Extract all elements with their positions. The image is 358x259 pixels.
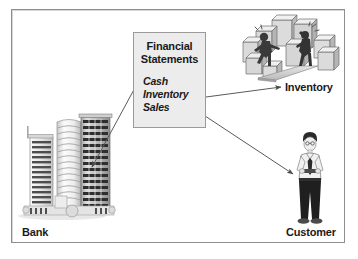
arrow-inventory-to-inventory xyxy=(206,87,281,97)
node-label-bank: Bank xyxy=(22,226,48,238)
financial-statement-item-inventory: Inventory xyxy=(143,88,205,101)
node-label-inventory: Inventory xyxy=(285,81,333,93)
standing-businessman-icon xyxy=(297,132,323,224)
financial-statements-title-line1: Financial xyxy=(134,40,205,53)
financial-statement-item-cash: Cash xyxy=(143,75,205,88)
financial-statements-items: Cash Inventory Sales xyxy=(134,75,205,114)
financial-statements-title-line2: Statements xyxy=(134,53,205,66)
financial-statements-box: Financial Statements Cash Inventory Sale… xyxy=(133,32,206,128)
financial-statements-title: Financial Statements xyxy=(134,40,205,66)
node-label-customer: Customer xyxy=(286,226,336,238)
financial-statement-item-sales: Sales xyxy=(143,101,205,114)
office-buildings-icon xyxy=(18,114,115,220)
warehouse-workers-boxes-icon xyxy=(243,15,339,82)
diagram-canvas: Financial Statements Cash Inventory Sale… xyxy=(0,0,358,259)
arrow-sales-to-customer xyxy=(196,110,293,174)
